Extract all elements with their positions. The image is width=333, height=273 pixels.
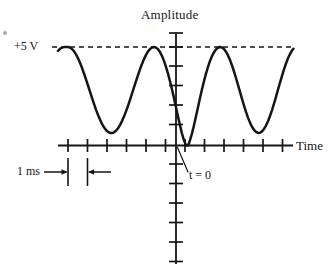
y-axis-title-amplitude: Amplitude [141, 8, 198, 21]
origin-label-t0: t = 0 [189, 169, 211, 181]
origin-callout-leader-line [178, 148, 189, 173]
interval-label-1ms: 1 ms [17, 165, 40, 177]
level-label-5v: +5 V [14, 40, 38, 52]
waveform-figure: Amplitude Time +5 V 1 ms t = 0 [0, 0, 333, 273]
interval-arrow-left [88, 169, 111, 175]
interval-marker-bars [68, 158, 88, 186]
interval-arrow-right [44, 169, 68, 175]
x-axis-title-time: Time [296, 139, 323, 152]
waveform-plot [0, 0, 333, 273]
